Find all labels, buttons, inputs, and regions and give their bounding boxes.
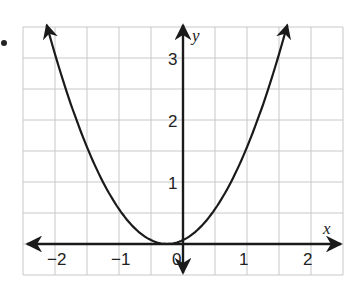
x-tick-label: −1	[111, 250, 130, 269]
x-tick-label: 1	[239, 250, 248, 269]
y-tick-label: 1	[168, 174, 177, 193]
y-axis-label: y	[190, 26, 200, 45]
parabola-graph: −2−1012123xy	[0, 0, 355, 299]
y-tick-label: 2	[168, 112, 177, 131]
x-tick-label: 2	[303, 250, 312, 269]
y-tick-label: 3	[168, 50, 177, 69]
x-axis-label: x	[322, 219, 331, 238]
x-tick-label: 0	[172, 250, 181, 269]
x-tick-label: −2	[47, 250, 66, 269]
